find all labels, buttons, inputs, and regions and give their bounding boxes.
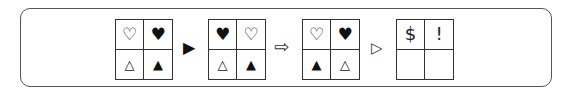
heart-filled-icon: ♥ <box>144 20 172 50</box>
exclamation-symbol: ! <box>425 20 453 50</box>
triangle-filled-icon: ▲ <box>303 50 331 80</box>
grid-1: ♡ ♥ △ ▲ <box>115 19 173 80</box>
hollow-block-arrow-icon: ⇨ <box>274 38 289 56</box>
heart-outline-icon: ♡ <box>237 20 265 50</box>
heart-filled-icon: ♥ <box>331 20 359 50</box>
heart-filled-icon: ♥ <box>209 20 237 50</box>
dollar-symbol: $ <box>397 20 425 50</box>
triangle-filled-icon: ▲ <box>237 50 265 80</box>
triangle-outline-icon: △ <box>331 50 359 80</box>
triangle-outline-icon: △ <box>209 50 237 80</box>
grid-4: $ ! <box>396 19 454 80</box>
grid-2: ♥ ♡ △ ▲ <box>208 19 266 80</box>
triangle-filled-icon: ▲ <box>144 50 172 80</box>
empty-cell <box>397 50 425 80</box>
grid-3: ♡ ♥ ▲ △ <box>302 19 360 80</box>
heart-outline-icon: ♡ <box>116 20 144 50</box>
filled-triangle-arrow-icon: ▶ <box>183 40 195 56</box>
empty-cell <box>425 50 453 80</box>
triangle-outline-icon: △ <box>116 50 144 80</box>
heart-outline-icon: ♡ <box>303 20 331 50</box>
hollow-triangle-arrow-icon: ▷ <box>371 41 383 56</box>
